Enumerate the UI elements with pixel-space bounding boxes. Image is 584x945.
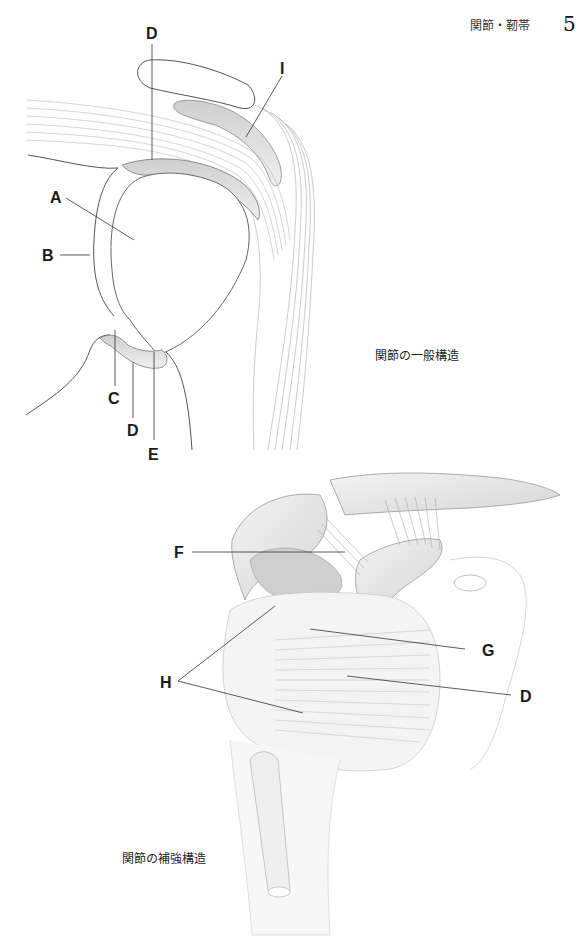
label-D: D (520, 688, 532, 705)
lower-bone-right (166, 352, 192, 450)
label-D-top: D (146, 25, 158, 42)
label-E: E (148, 446, 159, 463)
clavicle (330, 473, 560, 515)
caption-reinforcing-structure: 関節の補強構造 (122, 849, 206, 866)
scapular-foramen (454, 575, 486, 591)
synovial-capsule (28, 155, 118, 316)
lower-bone-outline (26, 335, 110, 415)
label-H: H (160, 674, 172, 691)
label-G: G (482, 642, 494, 659)
caption-general-structure: 関節の一般構造 (375, 346, 459, 363)
label-D-bottom: D (127, 422, 139, 439)
capsule-body (223, 592, 440, 771)
label-B: B (42, 247, 54, 264)
general-joint-figure: D I A B C D E (26, 25, 314, 463)
label-C: C (108, 390, 120, 407)
joint-illustrations: D I A B C D E (0, 0, 584, 945)
label-I: I (280, 60, 284, 77)
label-F: F (174, 544, 184, 561)
reinforcement-figure: F G D H (160, 473, 560, 935)
tendon-fibers (246, 105, 314, 450)
label-A: A (50, 189, 62, 206)
biceps-tendon-end (268, 887, 290, 897)
humeral-head (111, 173, 249, 355)
